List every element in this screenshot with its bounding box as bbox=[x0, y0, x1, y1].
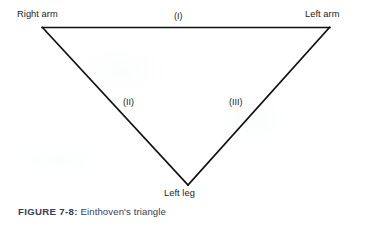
vertex-label-left-leg: Left leg bbox=[164, 188, 195, 199]
vertex-label-right-arm: Right arm bbox=[17, 9, 58, 20]
vertex-label-left-arm: Left arm bbox=[305, 9, 340, 20]
figure-caption: FIGURE 7-8: Einthoven's triangle bbox=[18, 205, 166, 218]
lead-III-line bbox=[188, 28, 330, 186]
lead-label-III: (III) bbox=[229, 97, 243, 108]
figure-caption-title: Einthoven's triangle bbox=[81, 206, 166, 217]
figure-caption-number: FIGURE 7-8: bbox=[18, 206, 78, 217]
lead-label-I: (I) bbox=[174, 11, 183, 22]
lead-label-II: (II) bbox=[123, 97, 134, 108]
lead-II-line bbox=[43, 28, 189, 186]
figure-page: Right arm Left arm Left leg (I) (II) (II… bbox=[0, 0, 369, 226]
